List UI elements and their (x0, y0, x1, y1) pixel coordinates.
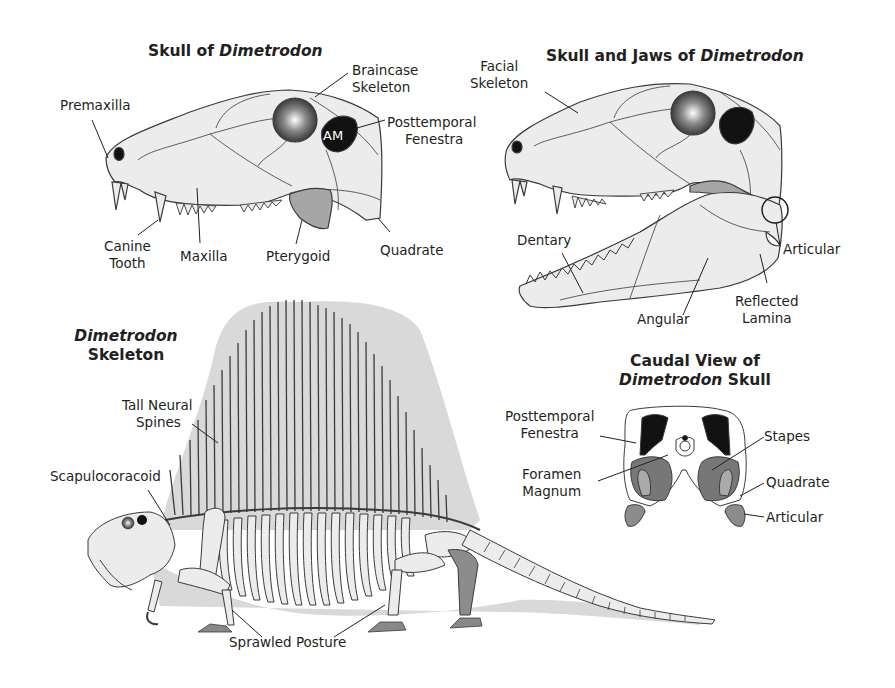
skull-jaws-view (505, 84, 788, 308)
label-dentary: Dentary (517, 232, 571, 249)
label-facial-skeleton: Facial Skeleton (470, 58, 528, 92)
label-posttemporal-fenestra-side: Posttemporal Fenestra (387, 114, 476, 148)
label-posttemporal-fenestra-caudal: Posttemporal Fenestra (505, 408, 594, 442)
am-fenestra-label: AM (323, 128, 343, 143)
label-angular: Angular (637, 311, 690, 328)
label-sprawled-posture: Sprawled Posture (229, 634, 346, 651)
label-canine-tooth: Canine Tooth (104, 238, 151, 272)
label-braincase-skeleton: Braincase Skeleton (352, 62, 418, 96)
title-italic-text: Dimetrodon (700, 47, 803, 65)
label-maxilla: Maxilla (180, 248, 227, 265)
label-tall-neural-spines: Tall Neural Spines (122, 397, 193, 431)
skull-side-title: Skull of Dimetrodon (148, 42, 323, 61)
label-reflected-lamina: Reflected Lamina (735, 293, 798, 327)
title-text: Skull of (148, 42, 219, 60)
skeleton-view (88, 300, 715, 632)
label-scapulocoracoid: Scapulocoracoid (50, 468, 161, 485)
label-premaxilla: Premaxilla (60, 97, 130, 114)
skull-jaws-title: Skull and Jaws of Dimetrodon (546, 47, 804, 66)
skull-side-view (106, 90, 382, 229)
label-articular-jaws: Articular (783, 241, 840, 258)
title-text: Skull and Jaws of (546, 47, 700, 65)
skeleton-title: Dimetrodon Skeleton (70, 327, 182, 365)
label-quadrate-caudal: Quadrate (766, 474, 829, 491)
label-stapes: Stapes (764, 428, 810, 445)
title-italic-text: Dimetrodon (219, 42, 322, 60)
label-foramen-magnum: Foramen Magnum (522, 466, 581, 500)
label-articular-caudal: Articular (766, 509, 823, 526)
caudal-title: Caudal View of Dimetrodon Skull (590, 352, 800, 390)
caudal-skull-view (624, 406, 746, 526)
label-quadrate-side: Quadrate (380, 242, 443, 259)
label-pterygoid: Pterygoid (266, 248, 330, 265)
